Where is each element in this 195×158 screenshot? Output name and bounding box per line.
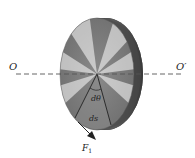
force-label: F1 <box>81 143 92 154</box>
angle-label: dθ <box>91 94 101 103</box>
axis-label-o: O <box>9 61 17 72</box>
axis-label-o-prime: O′ <box>176 61 187 72</box>
arc-label: ds <box>89 114 98 123</box>
disc-diagram: O O′ dθ ds F1 <box>0 0 195 158</box>
